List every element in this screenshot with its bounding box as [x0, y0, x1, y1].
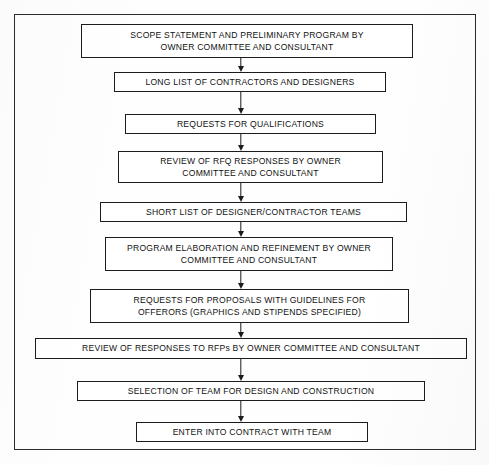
- down-arrow-icon: [238, 375, 244, 381]
- flow-node-selection-of-team: SELECTION OF TEAM FOR DESIGN AND CONSTRU…: [77, 381, 425, 401]
- flow-node-requests-for-proposals: REQUESTS FOR PROPOSALS WITH GUIDELINES F…: [90, 289, 409, 323]
- flow-connector-arrow-1: [235, 58, 247, 72]
- flow-node-long-list: LONG LIST OF CONTRACTORS AND DESIGNERS: [114, 72, 386, 92]
- down-arrow-icon: [238, 196, 244, 202]
- connector-line: [240, 183, 241, 197]
- flow-node-review-rfq-responses: REVIEW OF RFQ RESPONSES BY OWNER COMMITT…: [118, 151, 383, 183]
- figure-page: SCOPE STATEMENT AND PRELIMINARY PROGRAM …: [0, 0, 489, 465]
- figure-frame: SCOPE STATEMENT AND PRELIMINARY PROGRAM …: [14, 14, 476, 450]
- connector-line: [240, 401, 241, 417]
- flow-connector-arrow-3: [235, 134, 247, 151]
- down-arrow-icon: [238, 416, 244, 422]
- down-arrow-icon: [238, 108, 244, 114]
- flow-connector-arrow-7: [235, 323, 247, 338]
- connector-line: [240, 92, 241, 109]
- flow-connector-arrow-6: [235, 271, 247, 289]
- flow-node-enter-into-contract: ENTER INTO CONTRACT WITH TEAM: [136, 422, 368, 442]
- flow-node-review-rfp-responses: REVIEW OF RESPONSES TO RFPs BY OWNER COM…: [35, 338, 467, 359]
- flow-node-program-elaboration: PROGRAM ELABORATION AND REFINEMENT BY OW…: [105, 237, 393, 271]
- flow-node-scope-statement: SCOPE STATEMENT AND PRELIMINARY PROGRAM …: [81, 24, 413, 58]
- down-arrow-icon: [238, 231, 244, 237]
- down-arrow-icon: [238, 66, 244, 72]
- flow-node-requests-for-qualifications: REQUESTS FOR QUALIFICATIONS: [125, 114, 376, 134]
- flow-connector-arrow-2: [235, 92, 247, 114]
- flow-connector-arrow-8: [235, 359, 247, 381]
- down-arrow-icon: [238, 332, 244, 338]
- down-arrow-icon: [238, 283, 244, 289]
- flow-node-short-list: SHORT LIST OF DESIGNER/CONTRACTOR TEAMS: [100, 202, 407, 222]
- connector-line: [240, 359, 241, 376]
- down-arrow-icon: [238, 145, 244, 151]
- flow-connector-arrow-4: [235, 183, 247, 202]
- flow-connector-arrow-5: [235, 222, 247, 237]
- flow-connector-arrow-9: [235, 401, 247, 422]
